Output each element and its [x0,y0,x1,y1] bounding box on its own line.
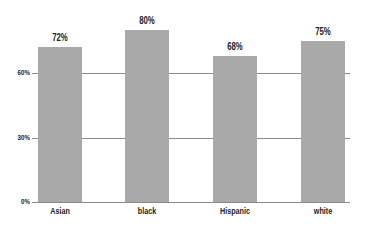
value-label: 80% [124,15,171,26]
gridline [37,202,350,203]
bar-white [301,41,345,202]
y-axis-label: 0% [7,197,30,206]
category-label: black [119,206,175,216]
bar-hispanic [213,56,257,202]
bar-chart: 0%30%60%72%Asian80%black68%Hispanic75%wh… [0,0,369,228]
bar-asian [38,47,82,202]
value-label: 75% [300,26,347,37]
y-axis-label: 30% [7,133,30,142]
y-tick [32,138,37,139]
y-tick [32,202,37,203]
y-tick [32,73,37,74]
y-axis-label: 60% [7,68,30,77]
category-label: Hispanic [207,206,263,216]
value-label: 72% [37,32,84,43]
bar-black [125,30,169,202]
value-label: 68% [212,41,259,52]
category-label: white [295,206,351,216]
category-label: Asian [32,206,88,216]
